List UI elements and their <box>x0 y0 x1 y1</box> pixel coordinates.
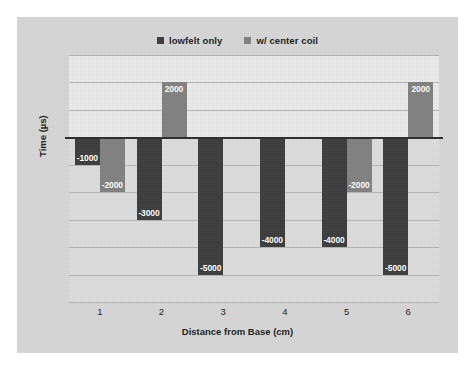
bar-group: -4000-2000 <box>316 55 378 302</box>
bar-group: -5000 <box>192 55 254 302</box>
bar-slot: -5000 <box>383 55 408 302</box>
bar-slot: -5000 <box>198 55 223 302</box>
bar-group: -30002000 <box>131 55 193 302</box>
chart-legend: lowfelt only w/ center coil <box>17 35 458 46</box>
bar[interactable]: -1000 <box>75 137 100 164</box>
bar-value-label: 2000 <box>165 82 184 94</box>
x-axis-tick-label: 5 <box>316 306 378 317</box>
square-marker-icon <box>157 37 164 44</box>
x-axis-tick-labels: 123456 <box>69 306 439 317</box>
bar-value-label: -2000 <box>348 180 369 192</box>
bar-value-label: -5000 <box>200 263 221 275</box>
plot-area: -1000-2000-30002000-5000-4000-4000-2000-… <box>69 55 439 302</box>
legend-label: w/ center coil <box>256 35 318 46</box>
bar-value-label: -3000 <box>138 208 159 220</box>
square-marker-icon <box>244 37 251 44</box>
bar[interactable]: 2000 <box>162 82 187 137</box>
bar-slot: 2000 <box>162 55 187 302</box>
bar-slot: -4000 <box>260 55 285 302</box>
bars-layer: -1000-2000-30002000-5000-4000-4000-2000-… <box>69 55 439 302</box>
x-axis-tick-label: 6 <box>377 306 439 317</box>
legend-entry-w-center-coil[interactable]: w/ center coil <box>244 35 318 46</box>
chart-figure: lowfelt only w/ center coil Time (µs) -1… <box>17 17 458 353</box>
zero-axis-line <box>65 137 443 139</box>
x-axis-title: Distance from Base (cm) <box>17 326 458 337</box>
bar-group: -50002000 <box>377 55 439 302</box>
x-axis-tick-label: 4 <box>254 306 316 317</box>
bar-value-label: 2000 <box>411 82 430 94</box>
x-axis-tick-label: 2 <box>131 306 193 317</box>
bar[interactable]: 2000 <box>408 82 433 137</box>
bar-group: -1000-2000 <box>69 55 131 302</box>
bar-group: -4000 <box>254 55 316 302</box>
bar-slot: -1000 <box>75 55 100 302</box>
bar[interactable]: -4000 <box>322 137 347 247</box>
bar-value-label: -1000 <box>77 153 98 165</box>
bar-slot <box>285 55 310 302</box>
bar[interactable]: -3000 <box>137 137 162 219</box>
bar-value-label: -5000 <box>385 263 406 275</box>
bar-slot: 2000 <box>408 55 433 302</box>
x-axis-tick-label: 1 <box>69 306 131 317</box>
bar-value-label: -2000 <box>102 180 123 192</box>
bar[interactable]: -5000 <box>383 137 408 274</box>
bar-slot <box>223 55 248 302</box>
legend-label: lowfelt only <box>169 35 222 46</box>
x-axis-tick-label: 3 <box>192 306 254 317</box>
bar[interactable]: -5000 <box>198 137 223 274</box>
bar[interactable]: -2000 <box>347 137 372 192</box>
bar-slot: -2000 <box>100 55 125 302</box>
y-axis-title: Time (µs) <box>37 115 48 157</box>
bar-slot: -3000 <box>137 55 162 302</box>
bar-slot: -2000 <box>347 55 372 302</box>
bar[interactable]: -2000 <box>100 137 125 192</box>
bar-value-label: -4000 <box>262 235 283 247</box>
legend-entry-lowfelt-only[interactable]: lowfelt only <box>157 35 222 46</box>
bar-slot: -4000 <box>322 55 347 302</box>
gridline <box>69 302 439 303</box>
bar-value-label: -4000 <box>323 235 344 247</box>
bar[interactable]: -4000 <box>260 137 285 247</box>
